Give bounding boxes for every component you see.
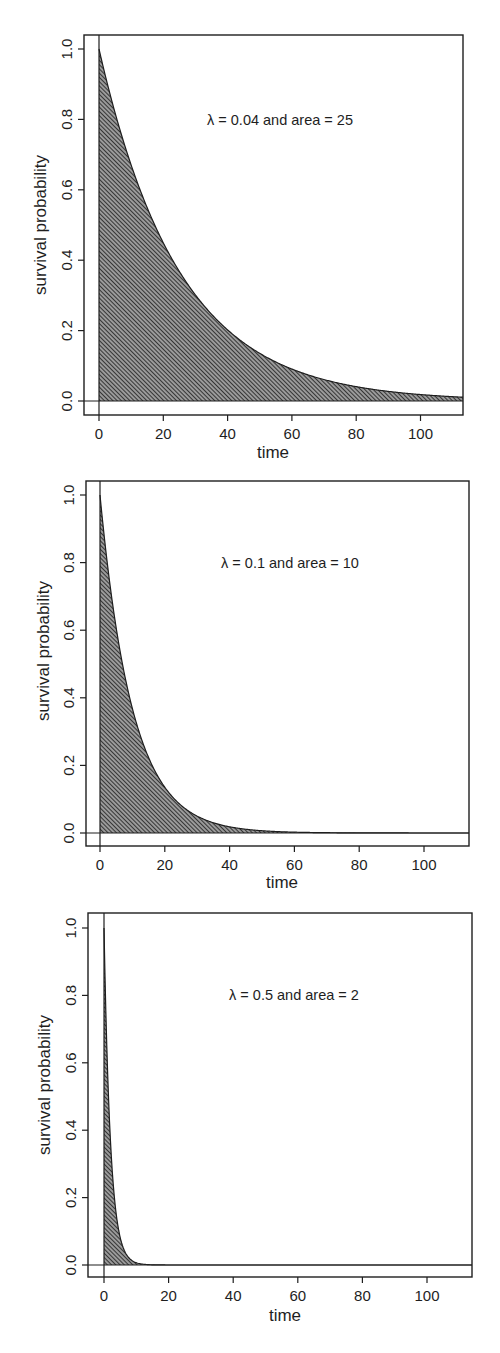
panel-2: 020406080100 0.00.20.40.60.81.0 λ = 0.1 … <box>34 481 469 892</box>
x-tick-label: 40 <box>225 1287 242 1304</box>
y-axis-label: survival probability <box>31 155 50 295</box>
x-axis: 020406080100 <box>95 415 433 442</box>
y-tick-label: 0.4 <box>60 687 77 708</box>
y-axis: 0.00.20.40.60.81.0 <box>60 485 86 844</box>
survival-area-fill <box>100 495 469 833</box>
x-axis-label: time <box>269 1306 301 1325</box>
x-tick-label: 60 <box>286 856 303 873</box>
panel-1: 020406080100 0.00.20.40.60.81.0 λ = 0.04… <box>31 35 463 462</box>
x-tick-label: 0 <box>95 425 103 442</box>
y-tick-label: 0.0 <box>58 391 75 412</box>
y-tick-label: 0.8 <box>60 552 77 573</box>
y-tick-label: 0.0 <box>60 823 77 844</box>
x-tick-label: 60 <box>284 425 301 442</box>
y-tick-label: 0.4 <box>62 1120 79 1141</box>
survival-curve <box>104 928 472 1265</box>
y-tick-label: 0.0 <box>62 1255 79 1276</box>
survival-figure: 020406080100 0.00.20.40.60.81.0 λ = 0.04… <box>0 0 500 1353</box>
panel-3: 020406080100 0.00.20.40.60.81.0 λ = 0.5 … <box>35 913 472 1325</box>
y-tick-label: 0.6 <box>58 179 75 200</box>
x-axis-label: time <box>266 873 298 892</box>
x-axis: 020406080100 <box>96 846 437 873</box>
y-tick-label: 0.8 <box>62 985 79 1006</box>
x-axis: 020406080100 <box>100 1277 440 1304</box>
y-axis-label: survival probability <box>34 581 53 721</box>
x-axis-label: time <box>257 443 289 462</box>
x-tick-label: 80 <box>354 1287 371 1304</box>
x-tick-label: 60 <box>289 1287 306 1304</box>
y-axis-label: survival probability <box>35 1015 54 1155</box>
y-tick-label: 0.6 <box>60 620 77 641</box>
y-tick-label: 1.0 <box>60 485 77 506</box>
y-tick-label: 0.8 <box>58 109 75 130</box>
x-tick-label: 80 <box>351 856 368 873</box>
x-tick-label: 0 <box>100 1287 108 1304</box>
x-tick-label: 100 <box>414 1287 439 1304</box>
lambda-annotation: λ = 0.1 and area = 10 <box>221 555 359 571</box>
y-tick-label: 0.2 <box>60 755 77 776</box>
x-tick-label: 20 <box>156 856 173 873</box>
x-tick-label: 20 <box>155 425 172 442</box>
x-tick-label: 40 <box>221 856 238 873</box>
y-tick-label: 0.4 <box>58 250 75 271</box>
y-tick-label: 1.0 <box>62 918 79 939</box>
x-tick-label: 0 <box>96 856 104 873</box>
lambda-annotation: λ = 0.5 and area = 2 <box>229 987 359 1003</box>
y-tick-label: 0.2 <box>62 1187 79 1208</box>
x-tick-label: 20 <box>160 1287 177 1304</box>
x-tick-label: 100 <box>408 425 433 442</box>
survival-area-fill <box>99 49 463 401</box>
x-tick-label: 80 <box>348 425 365 442</box>
y-axis: 0.00.20.40.60.81.0 <box>62 918 88 1276</box>
y-axis: 0.00.20.40.60.81.0 <box>58 39 84 412</box>
survival-area-fill <box>104 928 472 1265</box>
plot-box <box>88 913 472 1277</box>
y-tick-label: 1.0 <box>58 39 75 60</box>
lambda-annotation: λ = 0.04 and area = 25 <box>207 112 353 128</box>
y-tick-label: 0.2 <box>58 320 75 341</box>
x-tick-label: 100 <box>411 856 436 873</box>
y-tick-label: 0.6 <box>62 1052 79 1073</box>
x-tick-label: 40 <box>219 425 236 442</box>
